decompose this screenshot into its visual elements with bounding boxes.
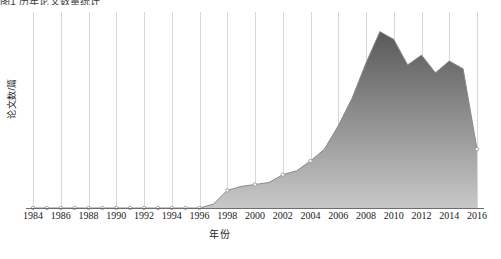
area-series — [33, 12, 477, 208]
x-tick-label: 2016 — [457, 210, 497, 221]
plot-area — [33, 12, 477, 208]
x-axis-title: 年份 — [0, 226, 501, 241]
data-point-marker — [475, 148, 478, 151]
data-point-marker — [253, 183, 256, 186]
area-fill — [33, 32, 477, 208]
x-axis-line — [26, 208, 484, 209]
data-point-marker — [281, 173, 284, 176]
y-axis-title: 论文数/篇 — [5, 62, 18, 136]
figure-title: 图1 历年论文数量统计 — [0, 0, 200, 5]
gridline — [477, 12, 478, 208]
data-point-marker — [309, 159, 312, 162]
chart-figure: 图1 历年论文数量统计 论文数/篇 1984198619881990199219… — [0, 0, 501, 259]
x-axis-title-text: 年份 — [209, 226, 230, 241]
data-point-marker — [226, 189, 229, 192]
x-axis-tick-labels: 1984198619881990199219941996199820002002… — [0, 210, 501, 226]
